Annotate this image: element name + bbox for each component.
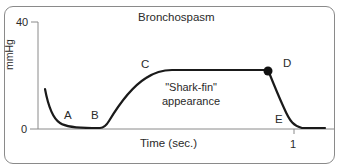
- shark-fin-note-line1: "Shark-fin": [162, 81, 220, 95]
- end-tidal-point-marker: [264, 67, 273, 76]
- x-axis-label: Time (sec.): [140, 138, 197, 150]
- x-tick-label-1: 1: [290, 139, 296, 150]
- y-tick-label-max: 40: [16, 17, 28, 28]
- shark-fin-note-line2: appearance: [162, 95, 220, 109]
- annotation-d: D: [283, 58, 291, 70]
- chart-title: Bronchospasm: [138, 12, 215, 24]
- annotation-e: E: [275, 114, 283, 126]
- shark-fin-note: "Shark-fin" appearance: [162, 81, 220, 109]
- annotation-c: C: [141, 59, 149, 71]
- y-tick-label-min: 0: [21, 124, 27, 135]
- y-axis-label: mmHg: [4, 39, 15, 70]
- annotation-a: A: [64, 110, 72, 122]
- annotation-b: B: [91, 110, 99, 122]
